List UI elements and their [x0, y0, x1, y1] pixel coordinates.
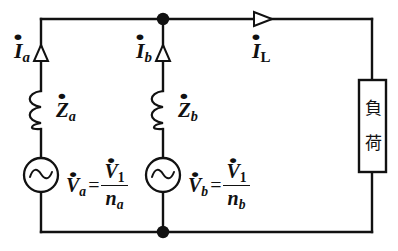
label-impedance-b-symbol: Z	[178, 100, 191, 121]
load-label-char-top: 負	[365, 100, 382, 117]
equation-source-b-numerator-subscript: 1	[240, 170, 247, 185]
equation-source-a-fraction: V1na	[101, 161, 127, 212]
equation-source-a-denominator-subscript: a	[117, 197, 124, 212]
equation-source-b-lhs-symbol: V	[188, 175, 201, 195]
equation-source-a-denominator: na	[101, 185, 127, 211]
label-current-a: Ia	[14, 40, 30, 65]
arrow-current-b	[156, 45, 170, 61]
equation-source-b-numerator-symbol: V	[226, 161, 239, 181]
load-label: 負 荷	[360, 82, 386, 170]
equation-source-b-denominator-subscript: b	[239, 197, 246, 212]
equation-source-a-denominator-symbol: n	[106, 187, 117, 209]
circuit-diagram-canvas: Ia Ib IL Za Zb Va=V1na Vb=V1nb 負 荷	[0, 0, 398, 251]
label-impedance-b: Zb	[178, 100, 198, 123]
label-current-a-symbol: I	[14, 40, 23, 62]
label-current-b: Ib	[136, 40, 152, 65]
equation-source-a-lhs-symbol: V	[66, 175, 79, 195]
label-impedance-a-symbol: Z	[56, 100, 69, 121]
inductor-coil-zb	[152, 91, 163, 129]
junction-dot-top	[157, 13, 169, 25]
equation-source-a-numerator-symbol: V	[104, 161, 117, 181]
equation-source-b-numerator: V1	[223, 161, 249, 185]
label-impedance-b-subscript: b	[191, 108, 198, 124]
equation-source-a-numerator: V1	[101, 161, 127, 185]
equation-source-a: Va=V1na	[66, 162, 128, 213]
equation-source-a-operator: =	[86, 174, 101, 196]
label-impedance-a: Za	[56, 100, 76, 123]
load-label-char-bottom: 荷	[365, 135, 382, 152]
equation-source-b-fraction: V1nb	[223, 161, 249, 212]
equation-source-b: Vb=V1nb	[188, 162, 250, 213]
label-current-load: IL	[252, 40, 271, 65]
circuit-schematic-svg	[0, 0, 398, 251]
label-impedance-a-subscript: a	[69, 108, 76, 124]
equation-source-b-operator: =	[208, 174, 223, 196]
label-current-b-symbol: I	[136, 40, 145, 62]
arrow-current-a	[34, 45, 48, 61]
junction-dot-bottom	[157, 226, 169, 238]
inductor-coil-za	[30, 91, 41, 129]
label-current-load-symbol: I	[252, 40, 261, 62]
equation-source-b-denominator-symbol: n	[228, 187, 239, 209]
equation-source-b-denominator: nb	[223, 185, 249, 211]
equation-source-a-numerator-subscript: 1	[118, 170, 125, 185]
